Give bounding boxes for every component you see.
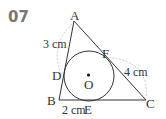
label-C: C	[146, 96, 155, 111]
label-A: A	[70, 8, 80, 23]
measure-AD: 3 cm	[43, 37, 67, 51]
triangle-incircle-diagram: A B C D E F O 3 cm 4 cm 2 cm	[0, 0, 166, 119]
label-D: D	[52, 68, 61, 83]
label-O: O	[84, 77, 93, 92]
label-B: B	[47, 93, 56, 108]
measure-BE: 2 cm	[62, 103, 86, 117]
measure-CF: 4 cm	[124, 65, 148, 79]
label-F: F	[102, 46, 109, 61]
